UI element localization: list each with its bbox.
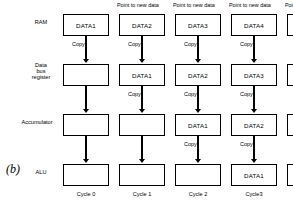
connector-data-bus-register-to-accumulator-col3 [197,86,198,110]
cell-ram-col4: DATA4 [231,14,277,36]
cell-accumulator-col3: DATA1 [175,114,221,136]
connector-ram-to-data-bus-register-col3 [197,36,198,60]
row-label-ram: RAM [18,19,64,25]
arrowhead-accumulator-to-alu-col2 [139,159,145,163]
copy-label-accumulator-to-alu-col3: Copy [184,141,197,147]
connector-data-bus-register-to-accumulator-col1 [85,86,86,110]
arrowhead-accumulator-to-alu-col3 [195,159,201,163]
connector-ram-to-data-bus-register-col1 [85,36,86,60]
pointer-label-col4: Point to new data [229,2,271,8]
cell-accumulator-col4: DATA2 [231,114,277,136]
row-label-data-bus-register: Databusregister [18,62,64,81]
cycle-label-col3: Cycle 2 [175,191,221,197]
arrowhead-data-bus-register-to-accumulator-col4 [251,109,257,113]
connector-accumulator-to-alu-col4 [253,136,254,160]
connector-data-bus-register-to-accumulator-col4 [253,86,254,110]
cell-data-bus-register-col4: DATA3 [231,64,277,86]
cycle-label-col4: Cycle3 [231,191,277,197]
connector-ram-to-data-bus-register-col2 [141,36,142,60]
cell-alu-col3 [175,164,221,186]
cell-ram-col1: DATA1 [63,14,109,36]
cell-ram-col2: DATA2 [119,14,165,36]
cycle-label-col5: Cycle4 [287,191,293,197]
cycle-label-col1: Cycle 0 [63,191,109,197]
arrowhead-ram-to-data-bus-register-col1 [83,59,89,63]
connector-data-bus-register-to-accumulator-col2 [141,86,142,110]
connector-accumulator-to-alu-col3 [197,136,198,160]
cell-alu-col2 [119,164,165,186]
cell-data-bus-register-col3: DATA2 [175,64,221,86]
copy-label-ram-to-data-bus-register-col1: Copy [72,41,85,47]
copy-label-ram-to-data-bus-register-col3: Copy [184,41,197,47]
arrowhead-data-bus-register-to-accumulator-col2 [139,109,145,113]
arrowhead-accumulator-to-alu-col4 [251,159,257,163]
copy-label-data-bus-register-to-accumulator-col3: Copy [184,91,197,97]
arrowhead-ram-to-data-bus-register-col4 [251,59,257,63]
arrowhead-ram-to-data-bus-register-col2 [139,59,145,63]
cell-alu-col5: DATA2 [287,164,293,186]
cycle-label-col2: Cycle 1 [119,191,165,197]
row-label-alu: ALU [18,169,64,175]
arrowhead-ram-to-data-bus-register-col3 [195,59,201,63]
cell-accumulator-col5: DATA3 [287,114,293,136]
copy-label-data-bus-register-to-accumulator-col2: Copy [128,91,141,97]
arrowhead-data-bus-register-to-accumulator-col3 [195,109,201,113]
row-label-line: RAM [18,19,64,25]
cell-data-bus-register-col5: DATA4 [287,64,293,86]
connector-accumulator-to-alu-col1 [85,136,86,160]
row-label-accumulator: Accumulator [14,119,60,125]
cell-data-bus-register-col2: DATA1 [119,64,165,86]
copy-label-accumulator-to-alu-col4: Copy [240,141,253,147]
cell-ram-col5: DATA5 [287,14,293,36]
copy-label-ram-to-data-bus-register-col2: Copy [128,41,141,47]
pointer-label-col2: Point to new data [117,2,159,8]
pointer-label-col5: Point to new data [285,2,293,8]
cell-accumulator-col1 [63,114,109,136]
row-label-line: register [18,74,64,80]
cell-accumulator-col2 [119,114,165,136]
cell-ram-col3: DATA3 [175,14,221,36]
pointer-label-col3: Point to new data [173,2,215,8]
copy-label-ram-to-data-bus-register-col4: Copy [240,41,253,47]
connector-ram-to-data-bus-register-col4 [253,36,254,60]
cell-alu-col4: DATA1 [231,164,277,186]
arrowhead-accumulator-to-alu-col1 [83,159,89,163]
copy-label-data-bus-register-to-accumulator-col4: Copy [240,91,253,97]
cell-data-bus-register-col1 [63,64,109,86]
row-label-line: Accumulator [14,119,60,125]
connector-accumulator-to-alu-col2 [141,136,142,160]
cell-alu-col1 [63,164,109,186]
row-label-line: ALU [18,169,64,175]
pipeline-diagram: (b) RAM Databusregister Accumulator ALU … [0,0,293,207]
arrowhead-data-bus-register-to-accumulator-col1 [83,109,89,113]
